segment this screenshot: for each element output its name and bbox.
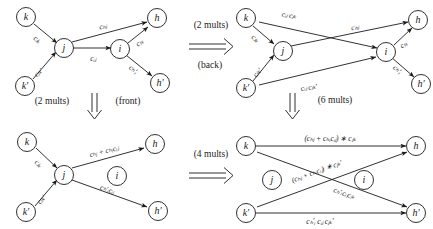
node-label-k: k: [244, 140, 249, 151]
edge-label-k-i: cᵢⱼ cⱼₖ: [281, 10, 298, 21]
node-label-hp: h′: [417, 78, 425, 89]
node-label-h: h: [414, 140, 419, 151]
transition-front: (2 mults) (front): [35, 93, 141, 119]
edge-label-k-j: cⱼₖ: [33, 158, 45, 170]
panel-bottom-left: k k′ j i h h′ cⱼₖ cⱼₖ′ cₕⱼ + cₕᵢcᵢⱼ cₕ′ᵢ…: [17, 133, 168, 222]
node-label-i: i: [363, 174, 366, 185]
node-label-k: k: [25, 136, 30, 147]
node-label-h: h: [153, 138, 158, 149]
back-arrow-glyph: [189, 39, 233, 55]
node-label-kp: k′: [23, 206, 30, 217]
node-label-i: i: [119, 43, 122, 54]
transition-six-mults: (6 mults): [286, 93, 353, 119]
node-label-k: k: [24, 11, 29, 22]
node-label-hp: h′: [412, 207, 420, 218]
four-mults-arrow-glyph: [189, 168, 233, 184]
node-label-h: h: [155, 12, 160, 23]
front-direction-label: (front): [116, 96, 141, 107]
figure-root: k k′ j i h h′ cⱼₖ cⱼₖ′ cₕⱼ cᵢⱼ cₕᵢ cₕ′ᵢ …: [0, 0, 433, 229]
edge-label-kp-i: cᵢⱼ cⱼₖ′: [300, 82, 318, 93]
edge-label-i-h: cₕᵢ: [134, 37, 145, 49]
panel-bottom-right: k k′ j i h h′ (cₕⱼ + cₕᵢcᵢⱼ) ∗ cⱼₖ (cₕⱼ …: [237, 134, 426, 226]
node-label-i: i: [385, 46, 388, 57]
six-mults-cost-label: (6 mults): [318, 95, 353, 106]
edge-label-j-h: cₕⱼ + cₕᵢcᵢⱼ: [89, 143, 120, 159]
back-cost-label: (2 mults): [194, 20, 229, 31]
node-label-k: k: [244, 12, 249, 23]
node-label-kp: k′: [243, 82, 250, 93]
front-arrow-glyph: [88, 93, 102, 119]
edge-label-i-hp: cₕ′ᵢ: [391, 63, 404, 76]
node-label-h: h: [416, 14, 421, 25]
node-label-kp: k′: [243, 207, 250, 218]
edge-label-kp-hp: cₕ′ᵢ cᵢⱼ cⱼₖ′: [306, 217, 334, 226]
back-direction-label: (back): [198, 60, 222, 71]
transition-back: (2 mults) (back): [189, 20, 233, 71]
panel-top-left: k k′ j i h h′ cⱼₖ cⱼₖ′ cₕⱼ cᵢⱼ cₕᵢ cₕ′ᵢ: [16, 8, 170, 96]
six-mults-arrow-glyph: [286, 93, 300, 119]
edge-label-j-h: cₕⱼ: [98, 21, 108, 31]
panel-top-right: k k′ j i h h′ cᵢⱼ cⱼₖ cⱼₖ cⱼₖ′ cᵢⱼ cⱼₖ′ …: [237, 9, 431, 98]
four-mults-cost-label: (4 mults): [194, 149, 229, 160]
node-label-hp: h′: [156, 77, 164, 88]
edge-kp-i: [259, 57, 376, 85]
edge-label-j-h: cₕⱼ: [351, 22, 361, 32]
figure-canvas: k k′ j i h h′ cⱼₖ cⱼₖ′ cₕⱼ cᵢⱼ cₕᵢ cₕ′ᵢ …: [0, 0, 433, 229]
edge-label-k-j: cⱼₖ: [32, 34, 44, 46]
edge-label-k-h: (cₕⱼ + cₕᵢcᵢⱼ) ∗ cⱼₖ: [304, 134, 356, 143]
edge-label-kp-j: cⱼₖ′: [251, 66, 264, 79]
node-label-i: i: [116, 170, 119, 181]
node-label-kp: k′: [22, 80, 29, 91]
edge-label-k-j: cⱼₖ: [250, 33, 262, 45]
front-cost-label: (2 mults): [35, 96, 70, 107]
node-label-hp: h′: [154, 205, 162, 216]
edge-label-j-i: cᵢⱼ: [90, 54, 97, 63]
transition-four-mults: (4 mults): [189, 149, 233, 183]
